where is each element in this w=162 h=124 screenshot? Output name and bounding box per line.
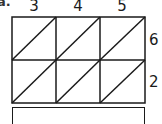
cell-diagonal — [12, 60, 56, 103]
answer-box[interactable] — [12, 107, 145, 124]
lattice-grid — [0, 0, 162, 124]
cell-diagonal — [56, 60, 100, 103]
cell-diagonal — [12, 17, 56, 60]
cell-diagonal — [56, 17, 100, 60]
cell-diagonal — [100, 60, 145, 103]
cell-diagonal — [100, 17, 145, 60]
